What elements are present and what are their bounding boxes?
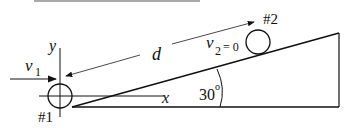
diagram-canvas: y x v 1 d #1 #2 v 2 = 0 30 o [0,0,350,128]
x-axis-label: x [161,89,169,106]
y-axis-label: y [47,37,57,55]
d-arrow-left [66,55,140,76]
angle-label: 30 [199,86,215,103]
v2-subscript: 2 [215,44,221,58]
v1-label: v [25,56,33,75]
v1-subscript: 1 [35,65,41,79]
v2-value: = 0 [223,40,239,54]
incline-diagram: y x v 1 d #1 #2 v 2 = 0 30 o [0,0,350,128]
ball-2-label: #2 [263,11,278,27]
angle-degree: o [215,81,220,92]
ball-2 [246,30,270,54]
ball-1-label: #1 [38,109,53,125]
v2-label: v [206,33,214,52]
distance-label: d [152,44,162,64]
